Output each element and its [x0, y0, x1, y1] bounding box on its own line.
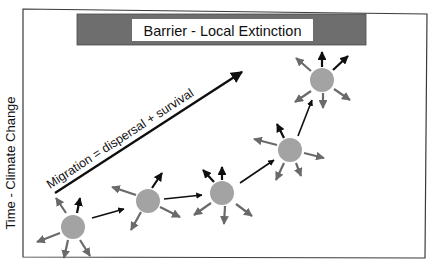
population-circle — [136, 189, 160, 213]
migration-diagram: Barrier - Local Extinction Time - Climat… — [0, 0, 431, 270]
population-circle — [61, 215, 85, 239]
barrier-label: Barrier - Local Extinction — [144, 23, 302, 39]
population-circle — [278, 138, 302, 162]
population-circle — [310, 68, 334, 92]
population-circle — [210, 181, 234, 205]
y-axis-label: Time - Climate Change — [3, 96, 18, 229]
barrier-bar: Barrier - Local Extinction — [77, 14, 366, 45]
